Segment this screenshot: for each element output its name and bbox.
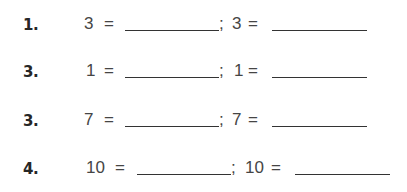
answer-blank-left[interactable] <box>137 174 231 175</box>
answer-blank-right[interactable] <box>272 30 367 31</box>
exercise-number: 4. <box>23 160 38 178</box>
answer-blank-left[interactable] <box>125 30 219 31</box>
exercise-number: 3. <box>23 112 38 130</box>
answer-blank-left[interactable] <box>125 126 219 127</box>
exercise-number: 1. <box>23 16 38 34</box>
left-value: 7 <box>84 110 93 130</box>
answer-blank-right[interactable] <box>272 126 367 127</box>
right-value: 1 <box>234 61 243 81</box>
equals-sign: = <box>248 110 258 130</box>
equals-sign: = <box>248 61 258 81</box>
exercise-row-1: 1. 3 = ; 3 = <box>0 12 407 42</box>
separator: ; <box>219 14 224 34</box>
exercise-row-4: 4. 10 = ; 10 = <box>0 156 407 186</box>
equals-sign: = <box>248 14 258 34</box>
equals-sign: = <box>104 61 114 81</box>
equals-sign: = <box>104 110 114 130</box>
left-value: 10 <box>86 158 105 178</box>
left-value: 3 <box>84 14 93 34</box>
equals-sign: = <box>115 158 125 178</box>
right-value: 3 <box>232 14 241 34</box>
separator: ; <box>219 61 224 81</box>
exercise-row-3: 3. 7 = ; 7 = <box>0 108 407 138</box>
exercise-row-2: 3. 1 = ; 1 = <box>0 59 407 89</box>
left-value: 1 <box>86 61 95 81</box>
answer-blank-left[interactable] <box>125 77 219 78</box>
separator: ; <box>231 158 236 178</box>
right-value: 7 <box>232 110 241 130</box>
answer-blank-right[interactable] <box>295 174 390 175</box>
answer-blank-right[interactable] <box>272 77 367 78</box>
equals-sign: = <box>104 14 114 34</box>
equals-sign: = <box>271 158 281 178</box>
right-value: 10 <box>245 158 264 178</box>
separator: ; <box>219 110 224 130</box>
exercise-number: 3. <box>23 63 38 81</box>
